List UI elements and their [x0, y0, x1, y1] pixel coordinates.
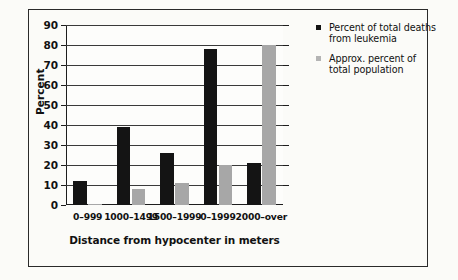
gridline	[66, 85, 283, 86]
legend-label-line2: total population	[329, 64, 436, 75]
bar-population-1	[132, 189, 146, 205]
gridline	[66, 45, 283, 46]
y-tick-mark	[61, 165, 66, 166]
chart-legend: Percent of total deaths from leukemia Ap…	[316, 22, 436, 84]
gridline	[66, 145, 283, 146]
y-tick-right	[283, 105, 289, 106]
y-tick-mark	[61, 25, 66, 26]
bar-deaths-1	[117, 127, 131, 205]
y-tick-mark	[61, 65, 66, 66]
legend-label-line1: Percent of total deaths	[329, 22, 436, 33]
y-tick-right	[283, 125, 289, 126]
bar-population-3	[219, 165, 233, 205]
y-tick-mark	[61, 85, 66, 86]
gridline	[66, 105, 283, 106]
y-tick-mark	[61, 205, 66, 206]
bar-deaths-4	[247, 163, 261, 205]
legend-item-deaths: Percent of total deaths from leukemia	[316, 22, 436, 45]
chart-figure: Percent 0102030405060708090 0–9991000–14…	[0, 0, 458, 280]
y-tick-mark	[61, 105, 66, 106]
gridline	[66, 25, 283, 26]
y-tick-right	[283, 185, 289, 186]
y-tick-label: 40	[44, 119, 58, 131]
y-tick-label: 80	[44, 39, 58, 51]
y-tick-mark	[61, 45, 66, 46]
legend-swatch-black-icon	[316, 25, 321, 30]
bar-population-0	[88, 204, 102, 205]
y-tick-label: 50	[44, 99, 58, 111]
y-tick-label: 70	[44, 59, 58, 71]
y-tick-label: 20	[44, 159, 58, 171]
legend-item-population: Approx. percent of total population	[316, 53, 436, 76]
y-tick-label: 90	[44, 19, 58, 31]
y-tick-right	[283, 65, 289, 66]
y-tick-right	[283, 25, 289, 26]
bar-population-2	[175, 183, 189, 205]
x-tick-label: 0–999	[73, 211, 102, 222]
x-tick-label: 0–1999	[200, 211, 235, 222]
bar-population-4	[262, 45, 276, 205]
gridline	[66, 125, 283, 126]
y-tick-label: 10	[44, 179, 58, 191]
gridline	[66, 65, 283, 66]
y-tick-right	[283, 165, 289, 166]
plot-area: 0102030405060708090 0–9991000–14991500–1…	[66, 25, 283, 205]
bar-deaths-3	[204, 49, 218, 205]
x-tick-label: 1500–1999	[148, 211, 202, 222]
legend-label-line1: Approx. percent of	[329, 53, 436, 64]
y-tick-label: 60	[44, 79, 58, 91]
legend-label-line2: from leukemia	[329, 33, 436, 44]
y-tick-mark	[61, 185, 66, 186]
bar-deaths-0	[73, 181, 87, 205]
y-tick-right	[283, 145, 289, 146]
bar-deaths-2	[160, 153, 174, 205]
y-tick-right	[283, 45, 289, 46]
y-tick-mark	[61, 125, 66, 126]
y-tick-label: 0	[51, 199, 58, 211]
y-tick-right	[283, 85, 289, 86]
y-tick-mark	[61, 145, 66, 146]
x-tick-label: 2000–over	[236, 211, 287, 222]
legend-swatch-gray-icon	[316, 56, 321, 61]
x-axis-title: Distance from hypocenter in meters	[66, 234, 283, 246]
y-tick-label: 30	[44, 139, 58, 151]
